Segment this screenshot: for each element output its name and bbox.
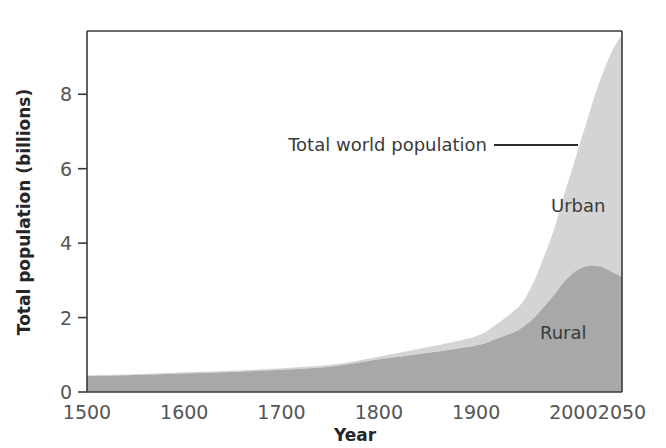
x-tick-label: 1700: [257, 401, 305, 423]
x-tick-label: 1900: [452, 401, 500, 423]
x-axis-title: Year: [333, 425, 377, 445]
x-tick-label: 1500: [63, 401, 111, 423]
chart-figure: 02468 1500160017001800190020002050 Total…: [0, 0, 666, 448]
x-tick-label: 1800: [355, 401, 403, 423]
x-tick-label: 2000: [549, 401, 597, 423]
y-axis-title: Total population (billions): [14, 89, 34, 335]
x-tick-label: 1600: [160, 401, 208, 423]
urban-series-label: Urban: [551, 195, 605, 216]
rural-series-label: Rural: [540, 322, 587, 343]
y-tick-label: 0: [60, 381, 72, 403]
total-population-annotation-label: Total world population: [287, 134, 487, 155]
population-area-chart: 02468 1500160017001800190020002050 Total…: [0, 0, 666, 448]
x-tick-label: 2050: [598, 401, 646, 423]
y-tick-label: 2: [60, 307, 72, 329]
y-tick-label: 4: [60, 232, 72, 254]
y-tick-label: 8: [60, 83, 72, 105]
y-tick-label: 6: [60, 158, 72, 180]
